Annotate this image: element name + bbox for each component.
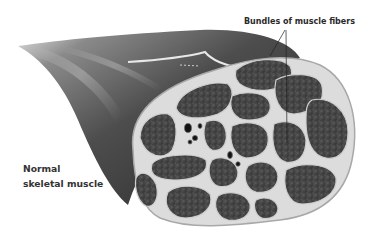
- label-bundles-of-muscle-fibers: Bundles of muscle fibers: [244, 17, 355, 26]
- label-muscle-line2: skeletal muscle: [23, 176, 103, 191]
- label-muscle-line1: Normal: [23, 161, 103, 176]
- label-normal-skeletal-muscle: Normal skeletal muscle: [23, 161, 103, 191]
- muscle-artwork: [0, 0, 368, 241]
- muscle-illustration: Bundles of muscle fibers Normal skeletal…: [0, 0, 368, 241]
